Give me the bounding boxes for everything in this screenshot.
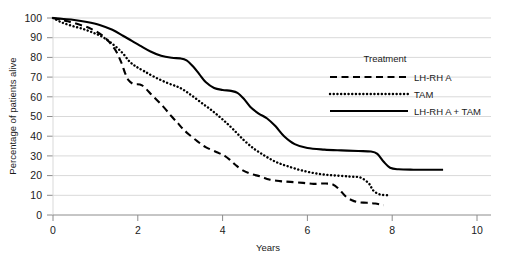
legend-label-3: LH-RH A + TAM	[414, 106, 481, 117]
x-tick-label: 10	[471, 224, 483, 236]
legend-label-1: LH-RH A	[414, 72, 452, 83]
x-tick-label: 2	[135, 224, 141, 236]
legend-entries-group: LH-RH ATAMLH-RH A + TAM	[330, 72, 481, 117]
chart-canvas: 0102030405060708090100 0246810 Percentag…	[0, 0, 528, 260]
y-tick-label: 100	[24, 12, 42, 24]
y-tick-label: 80	[30, 51, 42, 63]
y-tick-label: 0	[36, 209, 42, 221]
x-tick-label: 4	[220, 224, 226, 236]
legend-label-2: TAM	[414, 89, 433, 100]
y-tick-label: 10	[30, 189, 42, 201]
y-tick-marks-group	[47, 18, 53, 215]
x-tick-label: 8	[389, 224, 395, 236]
y-tick-label: 50	[30, 110, 42, 122]
y-tick-label: 90	[30, 31, 42, 43]
y-tick-label: 70	[30, 71, 42, 83]
x-tick-labels-group: 0246810	[50, 224, 483, 236]
x-tick-marks-group	[53, 215, 477, 221]
x-axis-title: Years	[256, 242, 280, 253]
x-tick-label: 6	[304, 224, 310, 236]
y-axis-title: Percentage of patients alive	[7, 57, 18, 174]
series-line-tam	[53, 18, 388, 195]
y-tick-label: 30	[30, 150, 42, 162]
survival-curve-chart: 0102030405060708090100 0246810 Percentag…	[0, 0, 528, 260]
y-tick-labels-group: 0102030405060708090100	[24, 12, 42, 221]
legend-title: Treatment	[364, 53, 407, 64]
y-tick-label: 60	[30, 91, 42, 103]
legend: Treatment LH-RH ATAMLH-RH A + TAM	[330, 53, 481, 117]
x-tick-label: 0	[50, 224, 56, 236]
y-tick-label: 40	[30, 130, 42, 142]
y-tick-label: 20	[30, 169, 42, 181]
